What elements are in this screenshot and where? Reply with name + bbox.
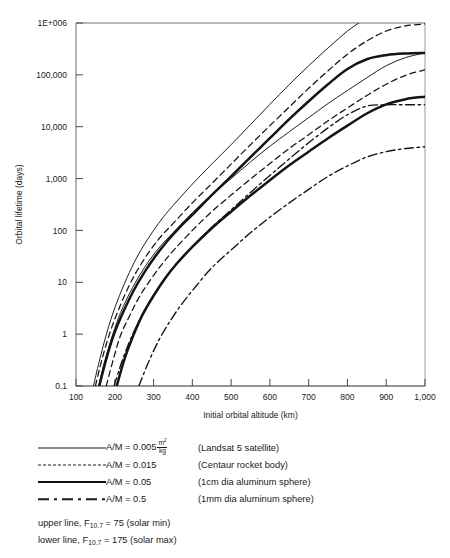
legend-description-0: (Landsat 5 satellite) xyxy=(198,443,279,453)
legend-am-text: A/M = 0.5 xyxy=(106,494,146,504)
x-axis: 1002003004005006007008009001,000 xyxy=(69,379,436,402)
legend-row-3: A/M = 0.5(1mm dia aluminum sphere) xyxy=(38,491,314,507)
legend-line-sample-dashdot xyxy=(38,492,106,506)
y-tick-label: 10 xyxy=(58,277,68,287)
y-tick-label: 0.1 xyxy=(55,381,67,391)
x-tick-label: 100 xyxy=(69,392,83,402)
legend-am-label-2: A/M = 0.05 xyxy=(106,477,198,487)
x-tick-label: 300 xyxy=(146,392,160,402)
legend-unit-exponent: 2 xyxy=(164,438,167,443)
legend-note-1: lower line, F10.7 = 175 (solar max) xyxy=(38,535,177,546)
legend-description-1: (Centaur rocket body) xyxy=(198,460,288,470)
y-tick-label: 1,000 xyxy=(46,174,68,184)
plot-frame xyxy=(76,23,425,386)
legend-row-0: A/M = 0.005m2kg(Landsat 5 satellite) xyxy=(38,440,279,456)
legend-note-subscript-0: 10.7 xyxy=(90,522,103,529)
curve-series-7 xyxy=(139,147,425,386)
x-tick-label: 200 xyxy=(108,392,122,402)
orbital-lifetime-chart: 0.11101001,00010,000100,0001E+0061002003… xyxy=(0,0,450,432)
legend-description-2: (1cm dia aluminum sphere) xyxy=(198,477,311,487)
legend-row-2: A/M = 0.05(1cm dia aluminum sphere) xyxy=(38,474,311,490)
legend-am-label-0: A/M = 0.005m2kg xyxy=(106,440,198,456)
x-axis-title: Initial orbital altitude (km) xyxy=(203,410,298,420)
legend-line-sample-solid-thick xyxy=(38,475,106,489)
legend-am-label-3: A/M = 0.5 xyxy=(106,494,198,504)
curve-series-1 xyxy=(98,53,425,386)
legend-unit-numerator: m2 xyxy=(157,439,167,447)
x-tick-label: 700 xyxy=(302,392,316,402)
legend-am-text: A/M = 0.05 xyxy=(106,477,151,487)
legend-line-sample-solid-thin xyxy=(38,441,106,455)
curve-series-3 xyxy=(106,70,425,386)
chart-legend: A/M = 0.005m2kg(Landsat 5 satellite)A/M … xyxy=(0,432,450,558)
legend-unit-fraction: m2kg xyxy=(157,439,167,455)
x-tick-label: 900 xyxy=(379,392,393,402)
x-tick-label: 800 xyxy=(340,392,354,402)
y-tick-label: 10,000 xyxy=(41,122,67,132)
legend-am-text: A/M = 0.015 xyxy=(106,460,156,470)
y-tick-label: 100 xyxy=(53,226,67,236)
legend-row-1: A/M = 0.015(Centaur rocket body) xyxy=(38,457,288,473)
legend-line-sample-dashed xyxy=(38,458,106,472)
y-tick-label: 1E+006 xyxy=(37,18,67,28)
y-axis-title: Orbital lifetime (days) xyxy=(14,164,24,244)
curve-series-2 xyxy=(95,24,425,386)
x-tick-label: 1,000 xyxy=(414,392,436,402)
x-tick-label: 400 xyxy=(185,392,199,402)
x-tick-label: 500 xyxy=(224,392,238,402)
curve-series-4 xyxy=(99,53,425,386)
curve-series-5 xyxy=(117,97,425,386)
legend-am-label-1: A/M = 0.015 xyxy=(106,460,198,470)
y-tick-label: 100,000 xyxy=(36,70,67,80)
legend-note-subscript-1: 10.7 xyxy=(88,539,101,546)
chart-curves xyxy=(93,23,425,386)
legend-note-0: upper line, F10.7 = 75 (solar min) xyxy=(38,518,170,529)
legend-unit-denominator: kg xyxy=(157,447,167,455)
legend-description-3: (1mm dia aluminum sphere) xyxy=(198,494,314,504)
legend-am-text: A/M = 0.005 xyxy=(106,442,156,452)
y-tick-label: 1 xyxy=(62,329,67,339)
x-tick-label: 600 xyxy=(263,392,277,402)
